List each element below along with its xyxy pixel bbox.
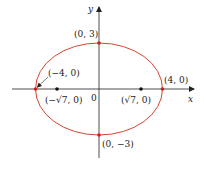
x-axis-label: x bbox=[188, 94, 193, 104]
left-vertex-point bbox=[34, 87, 38, 91]
y-axis-label: y bbox=[87, 4, 94, 14]
right-focus-point bbox=[139, 87, 143, 91]
top-vertex-point bbox=[97, 41, 101, 45]
right-vertex-point bbox=[161, 87, 165, 91]
top-vertex-label: (0, 3) bbox=[74, 29, 98, 39]
left-vertex-leader-arrow bbox=[38, 77, 49, 87]
right-focus-label: (√7, 0) bbox=[121, 95, 151, 105]
left-focus-label: (−√7, 0) bbox=[45, 95, 82, 105]
bottom-vertex-point bbox=[97, 133, 101, 137]
bottom-vertex-label: (0, −3) bbox=[102, 139, 134, 149]
origin-label: 0 bbox=[91, 93, 97, 103]
ellipse-diagram: y x 0 (0, 3) (0, −3) (−4, 0) (4, 0) (−√7… bbox=[0, 0, 206, 170]
right-vertex-label: (4, 0) bbox=[164, 75, 188, 85]
left-focus-point bbox=[55, 87, 59, 91]
left-vertex-label: (−4, 0) bbox=[48, 68, 80, 78]
